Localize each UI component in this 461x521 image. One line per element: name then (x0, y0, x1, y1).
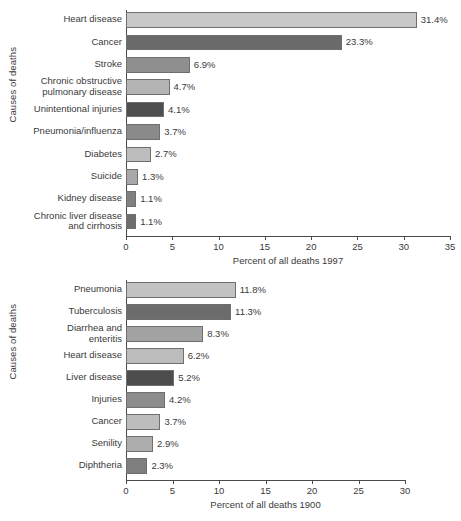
x-axis-line (126, 236, 450, 237)
bar (126, 392, 165, 408)
x-tick-label: 0 (123, 485, 128, 496)
x-axis-title: Percent of all deaths 1997 (233, 255, 343, 266)
x-tick (405, 480, 406, 484)
x-tick-label: 15 (260, 241, 271, 252)
x-tick-label: 20 (306, 241, 317, 252)
bar-value-label: 2.9% (157, 438, 179, 449)
bar (126, 35, 342, 51)
bar-value-label: 1.3% (142, 171, 164, 182)
x-tick-label: 30 (398, 241, 409, 252)
bar-value-label: 5.2% (178, 372, 200, 383)
x-tick (219, 480, 220, 484)
x-tick-label: 30 (400, 485, 411, 496)
category-label: Liver disease (0, 372, 122, 383)
bar-value-label: 6.2% (188, 350, 210, 361)
bar (126, 102, 164, 118)
category-label: Senility (0, 438, 122, 449)
bar (126, 124, 160, 140)
bar (126, 370, 174, 386)
category-label: Stroke (0, 59, 122, 70)
category-label: Diabetes (0, 149, 122, 160)
category-label: Cancer (0, 37, 122, 48)
category-label: Kidney disease (0, 193, 122, 204)
bar-value-label: 4.1% (168, 104, 190, 115)
bar (126, 12, 417, 28)
x-tick (265, 236, 266, 240)
category-label: Tuberculosis (0, 306, 122, 317)
bar (126, 458, 147, 474)
x-tick (266, 480, 267, 484)
bar (126, 191, 136, 207)
x-tick (173, 480, 174, 484)
x-tick (126, 236, 127, 240)
bar-value-label: 6.9% (194, 59, 216, 70)
bar (126, 304, 231, 320)
x-tick (126, 480, 127, 484)
bar (126, 326, 203, 342)
bar-value-label: 11.8% (240, 284, 266, 295)
x-tick (450, 236, 451, 240)
category-label: Suicide (0, 171, 122, 182)
category-label: Chronic obstructive pulmonary disease (0, 76, 122, 97)
bar-value-label: 3.7% (164, 126, 186, 137)
x-tick (172, 236, 173, 240)
x-tick (219, 236, 220, 240)
bar-value-label: 31.4% (421, 14, 448, 25)
x-tick-label: 20 (307, 485, 318, 496)
bar-value-label: 4.2% (169, 394, 191, 405)
category-label: Cancer (0, 416, 122, 427)
category-label: Diphtheria (0, 460, 122, 471)
x-tick-label: 35 (445, 241, 456, 252)
bar (126, 57, 190, 73)
x-tick-label: 10 (213, 241, 224, 252)
bar (126, 436, 153, 452)
bar-value-label: 1.1% (140, 216, 162, 227)
category-label: Diarrhea and enteritis (0, 323, 122, 344)
category-label: Chronic liver disease and cirrhosis (0, 211, 122, 232)
bar (126, 348, 184, 364)
category-label: Pneumonia (0, 284, 122, 295)
x-tick-label: 0 (123, 241, 128, 252)
category-label: Heart disease (0, 350, 122, 361)
chart-deaths-1900: Causes of deaths 051015202530Percent of … (0, 268, 461, 521)
x-tick-label: 25 (352, 241, 363, 252)
x-tick (359, 480, 360, 484)
bar-value-label: 8.3% (207, 328, 229, 339)
bar (126, 414, 160, 430)
bar-value-label: 4.7% (174, 81, 196, 92)
x-tick (312, 480, 313, 484)
x-tick (311, 236, 312, 240)
bar-value-label: 1.1% (140, 193, 162, 204)
bar-value-label: 3.7% (164, 416, 186, 427)
category-label: Pneumonia/influenza (0, 126, 122, 137)
x-tick-label: 25 (353, 485, 364, 496)
bar (126, 282, 236, 298)
category-label: Injuries (0, 394, 122, 405)
x-tick-label: 5 (170, 485, 175, 496)
category-label: Heart disease (0, 14, 122, 25)
bar (126, 169, 138, 185)
bar-value-label: 11.3% (235, 306, 261, 317)
bar-value-label: 23.3% (346, 36, 373, 47)
x-axis-title: Percent of all deaths 1900 (210, 499, 320, 510)
x-tick-label: 10 (214, 485, 225, 496)
bar (126, 147, 151, 163)
bar (126, 214, 136, 230)
bar (126, 79, 170, 95)
category-label: Unintentional injuries (0, 104, 122, 115)
bar-value-label: 2.7% (155, 148, 177, 159)
x-tick-label: 15 (260, 485, 271, 496)
chart-deaths-1997: Causes of deaths 05101520253035Percent o… (0, 0, 461, 268)
x-tick-label: 5 (170, 241, 175, 252)
x-tick (357, 236, 358, 240)
x-tick (404, 236, 405, 240)
bar-value-label: 2.3% (151, 460, 173, 471)
